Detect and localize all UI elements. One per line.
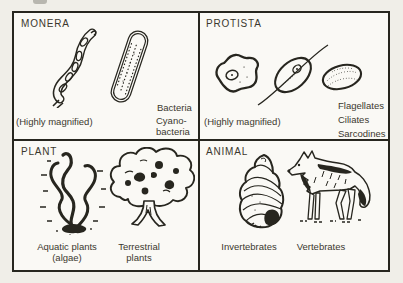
sarcodines-label: Sarcodines — [338, 127, 386, 141]
quadrant-animal: ANIMAL — [200, 141, 388, 270]
flagellates-label: Flagellates — [338, 99, 386, 113]
quadrant-plant: PLANT — [14, 141, 200, 270]
protist-type-list: Flagellates Ciliates Sarcodines — [338, 99, 386, 141]
kingdoms-diagram: MONERA — [0, 0, 403, 283]
protista-magnified-note: (Highly magnified) — [204, 116, 281, 127]
tree-illustration — [107, 147, 195, 231]
vertebrates-label: Vertebrates — [284, 241, 358, 252]
diagram-frame: MONERA — [12, 11, 390, 272]
algae-illustration — [39, 147, 107, 235]
ciliates-label: Ciliates — [338, 113, 386, 127]
quadrant-protista: PROTISTA — [200, 13, 388, 141]
rod-bacterium-illustration — [106, 27, 152, 107]
protista-title: PROTISTA — [206, 18, 262, 29]
amoeba-illustration — [212, 51, 262, 98]
monera-magnified-note: (Highly magnified) — [16, 116, 93, 127]
flagellate-illustration — [256, 43, 330, 107]
cyanobacteria-label: Cyano- bacteria — [156, 115, 190, 137]
cyanobacteria-filament-illustration — [52, 26, 102, 108]
dog-illustration — [280, 149, 374, 225]
snail-shell-illustration — [235, 152, 285, 230]
scan-smudge — [33, 0, 47, 4]
terrestrial-plants-label: Terrestrial plants — [100, 241, 178, 263]
quadrant-monera: MONERA — [14, 13, 200, 141]
ciliate-illustration — [320, 59, 364, 95]
invertebrates-label: Invertebrates — [204, 241, 294, 252]
bacteria-label: Bacteria — [157, 102, 192, 113]
